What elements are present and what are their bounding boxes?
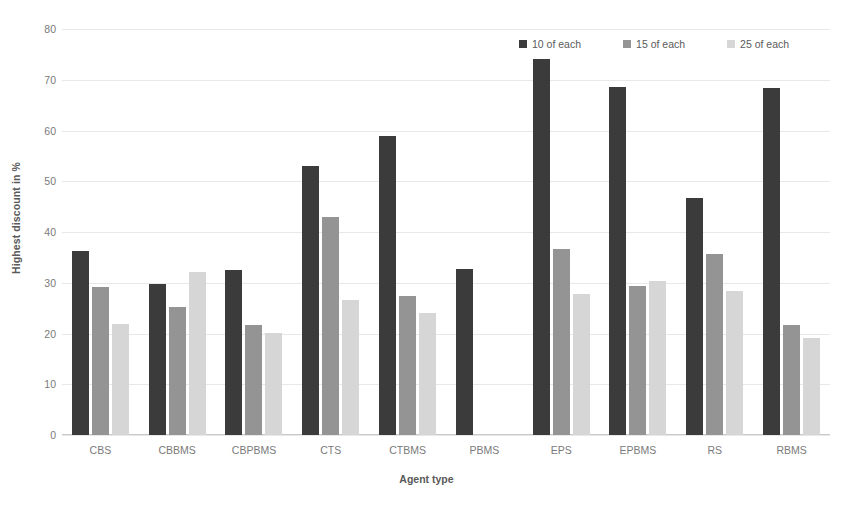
y-axis-tick-label: 60: [30, 125, 56, 136]
bar: [379, 136, 396, 435]
x-axis-tick-labels: CBSCBBMSCBPBMSCTSCTBMSPBMSEPSEPBMSRSRBMS: [62, 444, 830, 456]
bar-group: [292, 29, 369, 435]
chart-legend: 10 of each15 of each25 of each: [519, 38, 789, 50]
y-axis-tick-label: 10: [30, 379, 56, 390]
y-axis-tick-labels: 01020304050607080: [28, 29, 56, 435]
legend-swatch-icon: [727, 40, 735, 48]
bar-group: [523, 29, 600, 435]
plot-area: [62, 29, 830, 435]
x-axis-tick-label: PBMS: [446, 444, 523, 456]
x-axis-tick-label: CTS: [292, 444, 369, 456]
bar: [629, 286, 646, 435]
gridline: [62, 435, 830, 436]
x-axis-tick-label: RBMS: [753, 444, 830, 456]
x-axis-tick-label: CBBMS: [139, 444, 216, 456]
bar-group: [600, 29, 677, 435]
legend-label: 25 of each: [740, 38, 789, 50]
bar: [686, 198, 703, 436]
bar: [609, 87, 626, 435]
y-axis-tick-label: 20: [30, 328, 56, 339]
legend-swatch-icon: [623, 40, 631, 48]
bar: [573, 294, 590, 435]
bar: [763, 88, 780, 435]
y-axis-title: Highest discount in %: [4, 0, 28, 435]
bar-group: [676, 29, 753, 435]
bar: [706, 254, 723, 435]
bar: [189, 272, 206, 435]
y-axis-tick-label: 70: [30, 75, 56, 86]
x-axis-tick-label: RS: [676, 444, 753, 456]
legend-swatch-icon: [519, 40, 527, 48]
y-axis-title-label: Highest discount in %: [10, 162, 22, 274]
bar: [649, 281, 666, 435]
y-axis-tick-label: 50: [30, 176, 56, 187]
x-axis-tick-label: CBPBMS: [216, 444, 293, 456]
bar: [342, 300, 359, 436]
legend-item[interactable]: 10 of each: [519, 38, 581, 50]
bar-groups: [62, 29, 830, 435]
bar: [553, 249, 570, 435]
x-axis-tick-label: CBS: [62, 444, 139, 456]
x-axis-tick-label: EPS: [523, 444, 600, 456]
bar: [245, 325, 262, 435]
bar: [302, 166, 319, 435]
bar-group: [753, 29, 830, 435]
x-axis-title-label: Agent type: [399, 473, 453, 485]
bar: [265, 333, 282, 436]
y-axis-tick-label: 40: [30, 227, 56, 238]
bar: [225, 270, 242, 435]
legend-item[interactable]: 25 of each: [727, 38, 789, 50]
y-axis-tick-label: 80: [30, 24, 56, 35]
bar-group: [62, 29, 139, 435]
bar: [419, 313, 436, 435]
x-axis-tick-label: CTBMS: [369, 444, 446, 456]
bar: [92, 287, 109, 435]
x-axis-title: Agent type: [0, 473, 853, 485]
legend-label: 15 of each: [636, 38, 685, 50]
bar-group: [216, 29, 293, 435]
bar: [169, 307, 186, 435]
bar: [726, 291, 743, 435]
bar: [533, 59, 550, 435]
bar: [322, 217, 339, 435]
bar: [456, 269, 473, 435]
bar-group: [446, 29, 523, 435]
bar: [399, 296, 416, 435]
bar-chart: Highest discount in % 01020304050607080 …: [0, 0, 853, 514]
bar-group: [139, 29, 216, 435]
x-axis-tick-label: EPBMS: [600, 444, 677, 456]
y-axis-tick-label: 30: [30, 278, 56, 289]
bar: [112, 324, 129, 435]
bar: [783, 325, 800, 435]
legend-label: 10 of each: [532, 38, 581, 50]
bar: [72, 251, 89, 435]
bar-group: [369, 29, 446, 435]
y-axis-tick-label: 0: [30, 430, 56, 441]
bar: [149, 284, 166, 435]
legend-item[interactable]: 15 of each: [623, 38, 685, 50]
bar: [803, 338, 820, 435]
